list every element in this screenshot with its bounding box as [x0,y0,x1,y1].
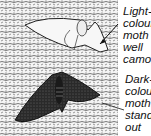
light-moth-label: Light- colour moth i well camou [123,5,151,65]
label-line: moth i [123,29,151,41]
label-line: stands [125,109,151,121]
label-line: Dark- [125,73,151,85]
label-line: moth [125,97,151,109]
dark-moth-label: Dark- colour moth stands out [125,73,151,133]
label-line: colour [123,17,151,29]
label-line: Light- [123,5,151,17]
label-line: out [125,121,151,133]
label-line: camou [123,53,151,65]
label-line: colour [125,85,151,97]
label-line: well [123,41,151,53]
